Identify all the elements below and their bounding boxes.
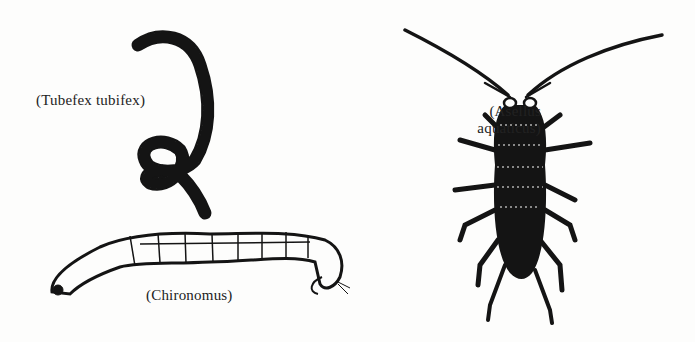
asellus-caption: (Asellus aquaticus): [467, 103, 541, 137]
tubifex-caption: (Tubefex tubifex): [36, 92, 145, 109]
asellus-caption-line2: aquaticus): [477, 120, 541, 136]
chironomus-caption: (Chironomus): [146, 287, 233, 304]
invertebrate-illustration-figure: (Tubefex tubifex) (Chironomus): [0, 0, 695, 342]
tubifex-worm-icon: [120, 25, 230, 225]
asellus-caption-line1: (Asellus: [489, 103, 541, 119]
asellus-isopod-icon: [400, 25, 670, 325]
